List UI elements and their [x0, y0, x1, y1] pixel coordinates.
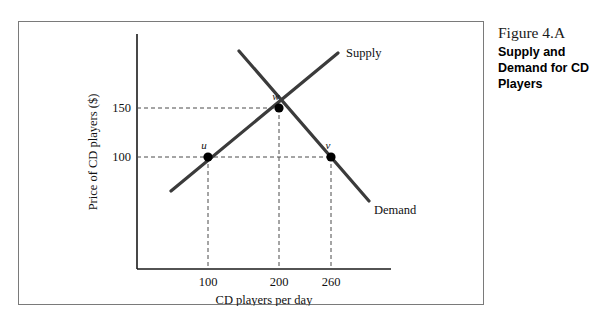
- point-label-v: v: [326, 139, 331, 151]
- figure-title-line-3: Players: [498, 76, 598, 92]
- y-tick-label-150: 150: [112, 101, 131, 115]
- figure-title-line-2: Demand for CD: [498, 60, 598, 76]
- x-tick-label-100: 100: [199, 275, 218, 289]
- supply-demand-chart: u w v Supply Demand 150 100 100 200 260 …: [19, 22, 485, 306]
- x-tick-label-200: 200: [270, 275, 289, 289]
- figure-root: u w v Supply Demand 150 100 100 200 260 …: [0, 0, 602, 327]
- figure-caption: Figure 4.A Supply and Demand for CD Play…: [498, 24, 598, 92]
- x-tick-label-260: 260: [322, 275, 341, 289]
- demand-curve: [239, 51, 369, 201]
- supply-curve-label: Supply: [346, 46, 382, 60]
- chart-panel: u w v Supply Demand 150 100 100 200 260 …: [18, 21, 484, 305]
- x-axis-title: CD players per day: [216, 293, 314, 306]
- data-point-markers: [203, 103, 335, 161]
- point-marker-u: [203, 152, 212, 161]
- guide-lines: [137, 108, 331, 269]
- point-label-u: u: [201, 139, 207, 151]
- point-label-w: w: [272, 90, 280, 102]
- figure-title: Supply and Demand for CD Players: [498, 44, 598, 92]
- point-marker-w: [274, 103, 283, 112]
- y-axis-title: Price of CD players ($): [86, 94, 100, 211]
- chart-axes: [137, 34, 391, 269]
- point-marker-v: [326, 152, 335, 161]
- supply-curve: [171, 53, 338, 191]
- y-tick-label-100: 100: [112, 150, 131, 164]
- figure-title-line-1: Supply and: [498, 44, 598, 60]
- demand-curve-label: Demand: [374, 203, 417, 217]
- figure-number: Figure 4.A: [498, 24, 598, 41]
